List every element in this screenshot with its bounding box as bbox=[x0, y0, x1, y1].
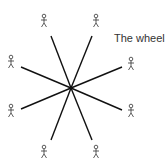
person-icon bbox=[93, 145, 99, 158]
person-icon bbox=[128, 104, 134, 117]
diagram-title: The wheel bbox=[114, 32, 165, 44]
person-icon bbox=[8, 104, 14, 117]
person-icon bbox=[128, 57, 134, 70]
person-icon bbox=[41, 145, 47, 158]
person-icon bbox=[8, 55, 14, 68]
wheel-spokes bbox=[21, 36, 122, 140]
wheel-diagram bbox=[0, 0, 167, 167]
hub-dot bbox=[70, 87, 73, 90]
person-icon bbox=[41, 14, 47, 27]
person-icon bbox=[93, 14, 99, 27]
